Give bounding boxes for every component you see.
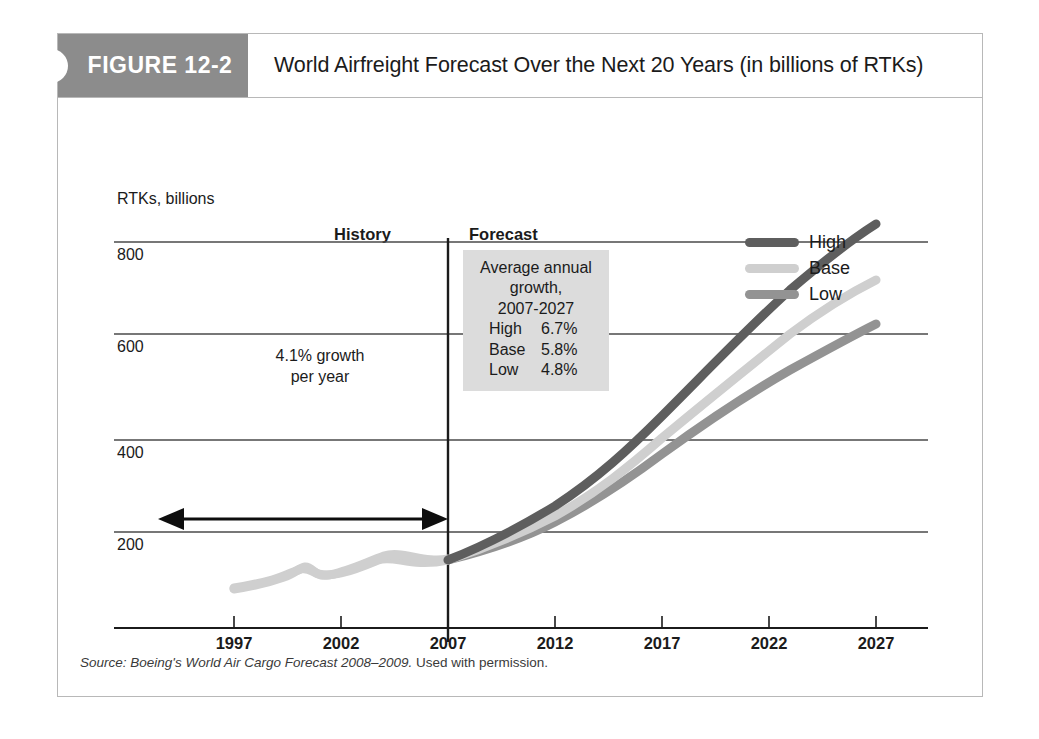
- figure-title: World Airfreight Forecast Over the Next …: [248, 34, 982, 97]
- growth-callout-box: Average annual growth, 2007-2027 High 6.…: [463, 250, 609, 391]
- x-tick-label-2007: 2007: [430, 634, 467, 653]
- x-tick-label-2022: 2022: [751, 634, 788, 653]
- growth-arrow-line-1: 4.1% growth: [225, 346, 415, 367]
- legend-swatch-low-icon: [745, 290, 799, 299]
- chart-legend: High Base Low: [745, 229, 850, 307]
- growth-box-value-high: 6.7%: [541, 319, 587, 339]
- growth-box-heading-2: growth,: [469, 278, 603, 298]
- series-line-history-detail: [234, 554, 448, 589]
- legend-item-high: High: [745, 229, 850, 255]
- legend-label-high: High: [809, 232, 846, 253]
- chart-plot-area: RTKs, billions 800 600 400 200 History F…: [58, 98, 984, 658]
- figure-number-label: FIGURE 12-2: [74, 52, 233, 79]
- source-note: Source: Boeing's World Air Cargo Forecas…: [80, 655, 548, 670]
- growth-arrow-annotation: 4.1% growth per year: [225, 346, 415, 388]
- x-tick-label-2017: 2017: [644, 634, 681, 653]
- growth-box-label-low: Low: [489, 360, 531, 380]
- legend-label-base: Base: [809, 258, 850, 279]
- source-note-citation: Source: Boeing's World Air Cargo Forecas…: [80, 655, 412, 670]
- growth-box-value-base: 5.8%: [541, 340, 587, 360]
- growth-box-value-low: 4.8%: [541, 360, 587, 380]
- growth-box-row-high: High 6.7%: [469, 319, 603, 339]
- x-tick-label-1997: 1997: [216, 634, 253, 653]
- band-notch-decoration: [49, 49, 68, 83]
- growth-box-heading-3: 2007-2027: [469, 299, 603, 319]
- source-note-permission: Used with permission.: [416, 655, 548, 670]
- x-tick-label-2027: 2027: [858, 634, 895, 653]
- legend-label-low: Low: [809, 284, 842, 305]
- growth-span-arrow: [158, 508, 448, 530]
- figure-frame: FIGURE 12-2 World Airfreight Forecast Ov…: [57, 33, 983, 697]
- growth-box-label-base: Base: [489, 340, 531, 360]
- x-tick-label-2002: 2002: [323, 634, 360, 653]
- growth-box-label-high: High: [489, 319, 531, 339]
- growth-arrow-line-2: per year: [225, 367, 415, 388]
- figure-header: FIGURE 12-2 World Airfreight Forecast Ov…: [58, 34, 982, 98]
- growth-box-row-low: Low 4.8%: [469, 360, 603, 380]
- legend-swatch-high-icon: [745, 238, 799, 247]
- legend-item-base: Base: [745, 255, 850, 281]
- legend-item-low: Low: [745, 281, 850, 307]
- legend-swatch-base-icon: [745, 264, 799, 273]
- figure-body: RTKs, billions 800 600 400 200 History F…: [58, 98, 982, 696]
- growth-box-row-base: Base 5.8%: [469, 340, 603, 360]
- growth-box-heading-1: Average annual: [469, 258, 603, 278]
- x-tick-label-2012: 2012: [537, 634, 574, 653]
- figure-number-band: FIGURE 12-2: [58, 34, 248, 97]
